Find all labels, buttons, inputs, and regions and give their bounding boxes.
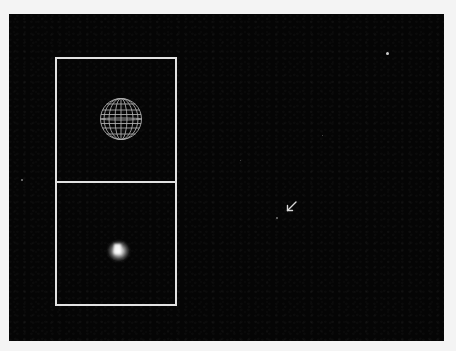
wireframe-sphere-icon <box>99 97 143 141</box>
star-dot <box>240 160 241 161</box>
star-dot <box>386 52 389 55</box>
point-source-core <box>114 244 121 254</box>
star-dot <box>276 217 278 219</box>
figure-canvas <box>0 0 456 351</box>
star-dot <box>21 179 23 181</box>
star-dot <box>322 135 323 136</box>
arrow-pointer-icon <box>284 199 300 215</box>
